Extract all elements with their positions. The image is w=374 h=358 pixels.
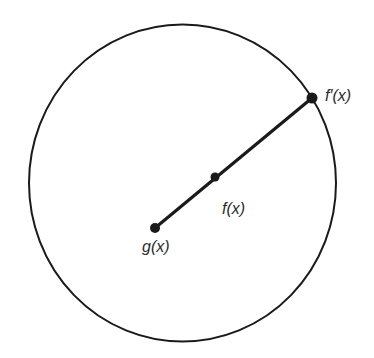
diagram-canvas: g(x) f(x) f′(x) (0, 0, 374, 358)
circle (29, 25, 336, 342)
label-fprime: f′(x) (325, 87, 351, 104)
point-fprime (307, 93, 318, 104)
point-f (211, 173, 220, 182)
label-f: f(x) (222, 200, 245, 217)
point-g (150, 223, 160, 233)
label-g: g(x) (142, 238, 170, 255)
